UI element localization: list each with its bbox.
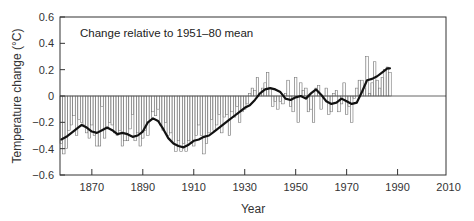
anomaly-bar [238, 96, 241, 122]
anomaly-bar [256, 78, 259, 96]
anomaly-bar [136, 96, 139, 133]
anomaly-bar [210, 96, 213, 120]
anomaly-bar [195, 96, 198, 136]
temperature-chart: −0.6−0.4−0.200.20.40.6 18701890191019301… [0, 0, 474, 221]
anomaly-bar [192, 96, 195, 146]
x-tick-label: 1910 [182, 181, 206, 193]
anomaly-bar [381, 78, 384, 96]
anomaly-bar [312, 96, 315, 122]
anomaly-bar [218, 96, 221, 114]
y-tick-label: −0.6 [32, 169, 54, 181]
anomaly-bar [108, 96, 111, 122]
anomaly-bar [198, 96, 201, 125]
y-tick-label: 0.4 [39, 37, 54, 49]
anomaly-bar [356, 88, 359, 96]
anomaly-bar [213, 96, 216, 130]
anomaly-bar [279, 96, 282, 101]
anomaly-bar [305, 88, 308, 96]
anomaly-bar [325, 88, 328, 96]
anomaly-bar [389, 72, 392, 96]
anomaly-bar [164, 96, 167, 122]
anomaly-bar [228, 96, 231, 136]
anomaly-bar [376, 80, 379, 96]
anomaly-bar [366, 57, 369, 97]
chart-annotation: Change relative to 1951–80 mean [80, 27, 253, 39]
anomaly-bar [80, 96, 83, 122]
anomaly-bar [103, 96, 106, 138]
y-tick-label: −0.2 [32, 116, 54, 128]
anomaly-bar [65, 96, 68, 149]
anomaly-bar [78, 96, 81, 120]
anomaly-bar [134, 96, 137, 141]
x-tick-label: 2010 [436, 181, 460, 193]
anomaly-bar [106, 96, 109, 129]
anomaly-bar [119, 96, 122, 130]
anomaly-bar [328, 96, 331, 114]
anomaly-bar [223, 96, 226, 117]
anomaly-bar [159, 96, 162, 125]
anomaly-bar [96, 96, 99, 146]
anomaly-bar [231, 96, 234, 112]
anomaly-bar [386, 67, 389, 96]
x-tick-label: 1890 [131, 181, 155, 193]
anomaly-bar [200, 96, 203, 136]
anomaly-bar [114, 96, 117, 133]
anomaly-bar [310, 96, 313, 109]
anomaly-bar [147, 96, 150, 136]
y-tick-label: 0.6 [39, 11, 54, 23]
anomaly-bar [83, 96, 86, 125]
anomaly-bar [101, 96, 104, 107]
anomaly-bar [111, 96, 114, 125]
anomaly-bar [287, 80, 290, 96]
anomaly-bar [98, 96, 101, 146]
x-axis: 18701890191019301950197019902010 [80, 169, 461, 193]
anomaly-bar [91, 96, 94, 125]
anomaly-bar [68, 96, 71, 130]
anomaly-bar [274, 96, 277, 101]
anomaly-bar [129, 96, 132, 129]
anomaly-bar [121, 96, 124, 146]
anomaly-bar [175, 96, 178, 151]
anomaly-bar [203, 96, 206, 154]
anomaly-bar [320, 96, 323, 109]
anomaly-bar [157, 96, 160, 109]
anomaly-bar [215, 96, 218, 125]
anomaly-bar [266, 72, 269, 96]
anomaly-bar [139, 96, 142, 146]
anomaly-bars [60, 57, 391, 154]
anomaly-bar [170, 96, 173, 133]
x-tick-label: 1970 [334, 181, 358, 193]
anomaly-bar [384, 70, 387, 96]
anomaly-bar [378, 88, 381, 96]
x-tick-label: 1870 [80, 181, 104, 193]
anomaly-bar [300, 83, 303, 96]
anomaly-bar [236, 96, 239, 107]
anomaly-bar [289, 96, 292, 107]
anomaly-bar [185, 96, 188, 151]
anomaly-bar [172, 96, 175, 142]
anomaly-bar [70, 96, 73, 125]
anomaly-bar [371, 83, 374, 96]
anomaly-bar [350, 96, 353, 122]
anomaly-bar [167, 96, 170, 136]
anomaly-bar [345, 96, 348, 114]
x-tick-label: 1930 [232, 181, 256, 193]
anomaly-bar [190, 96, 193, 143]
anomaly-bar [73, 96, 76, 116]
anomaly-bar [177, 96, 180, 141]
anomaly-bar [254, 91, 257, 96]
anomaly-bar [302, 91, 305, 96]
anomaly-bar [180, 96, 183, 151]
anomaly-bar [131, 96, 134, 114]
anomaly-bar [152, 96, 155, 112]
anomaly-bar [162, 96, 165, 130]
anomaly-bar [271, 96, 274, 107]
anomaly-bar [63, 96, 66, 154]
anomaly-bar [294, 78, 297, 96]
anomaly-bar [93, 96, 96, 136]
anomaly-bar [88, 96, 91, 138]
anomaly-bar [187, 96, 190, 141]
anomaly-bar [116, 96, 119, 136]
y-axis-title: Temperature change (°C) [10, 29, 24, 164]
x-tick-label: 1950 [283, 181, 307, 193]
